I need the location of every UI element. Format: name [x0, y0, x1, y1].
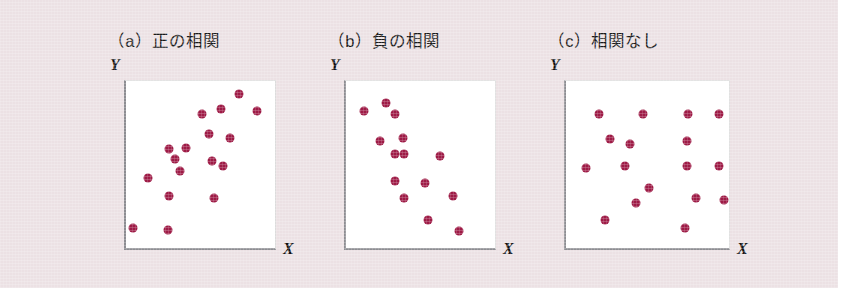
- panel-no-correlation: （c）相関なし Y X: [548, 0, 748, 288]
- scatter-point: [645, 183, 654, 192]
- scatter-point: [181, 143, 190, 152]
- scatter-point: [218, 162, 227, 171]
- scatter-point: [217, 105, 226, 114]
- scatter-point: [398, 133, 407, 142]
- scatter-point: [420, 178, 429, 187]
- panel-title-a: （a）正の相関: [108, 28, 221, 52]
- scatter-point: [682, 137, 691, 146]
- plot-area-a: [124, 80, 276, 250]
- scatter-point: [638, 110, 647, 119]
- scatter-point: [620, 162, 629, 171]
- scatter-point: [391, 110, 400, 119]
- scatter-point: [449, 192, 458, 201]
- scatter-point: [165, 145, 174, 154]
- scatter-point: [235, 90, 244, 99]
- y-axis-label-c: Y: [550, 56, 560, 74]
- plot-area-c: [564, 80, 730, 250]
- scatter-point: [376, 137, 385, 146]
- figure-container: （a）正の相関 Y X （b）負の相関 Y X （c）相関なし Y X: [0, 0, 838, 288]
- scatter-point: [226, 133, 235, 142]
- scatter-point: [197, 110, 206, 119]
- scatter-point: [359, 107, 368, 116]
- x-axis-label-c: X: [737, 240, 748, 258]
- scatter-point: [144, 173, 153, 182]
- panel-positive-correlation: （a）正の相関 Y X: [108, 0, 298, 288]
- scatter-point: [175, 167, 184, 176]
- scatter-point: [684, 110, 693, 119]
- scatter-point: [391, 177, 400, 186]
- plot-area-b: [344, 80, 496, 250]
- scatter-point: [715, 162, 724, 171]
- y-axis-label-b: Y: [330, 56, 340, 74]
- scatter-layer-b: [346, 81, 495, 248]
- scatter-layer-c: [566, 81, 729, 248]
- scatter-point: [455, 227, 464, 236]
- panel-negative-correlation: （b）負の相関 Y X: [328, 0, 518, 288]
- scatter-point: [208, 157, 217, 166]
- scatter-point: [606, 135, 615, 144]
- scatter-point: [129, 223, 138, 232]
- scatter-point: [400, 193, 409, 202]
- panel-title-b: （b）負の相関: [328, 28, 441, 52]
- x-axis-label-b: X: [503, 240, 514, 258]
- scatter-point: [715, 110, 724, 119]
- scatter-point: [163, 225, 172, 234]
- scatter-point: [205, 130, 214, 139]
- scatter-point: [680, 223, 689, 232]
- scatter-point: [594, 110, 603, 119]
- y-axis-label-a: Y: [110, 56, 120, 74]
- scatter-point: [601, 215, 610, 224]
- scatter-point: [165, 192, 174, 201]
- scatter-point: [391, 150, 400, 159]
- scatter-point: [720, 195, 729, 204]
- scatter-point: [253, 107, 262, 116]
- scatter-point: [632, 198, 641, 207]
- scatter-point: [435, 152, 444, 161]
- scatter-point: [382, 98, 391, 107]
- scatter-point: [423, 215, 432, 224]
- x-axis-label-a: X: [283, 240, 294, 258]
- scatter-point: [171, 155, 180, 164]
- panel-title-c: （c）相関なし: [548, 28, 660, 52]
- scatter-point: [682, 162, 691, 171]
- scatter-point: [400, 150, 409, 159]
- scatter-point: [581, 163, 590, 172]
- scatter-point: [209, 193, 218, 202]
- scatter-point: [625, 140, 634, 149]
- scatter-point: [692, 193, 701, 202]
- scatter-layer-a: [126, 81, 275, 248]
